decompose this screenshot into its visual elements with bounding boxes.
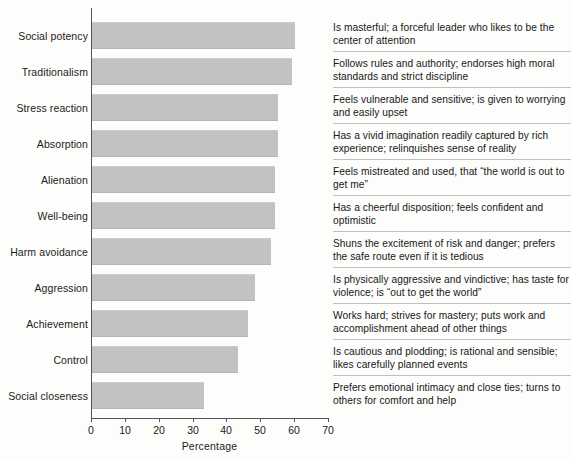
description-text: Prefers emotional intimacy and close tie… — [333, 381, 571, 407]
bar — [92, 94, 278, 121]
category-label: Harm avoidance — [2, 246, 88, 258]
x-axis-tick-label: 60 — [279, 424, 309, 436]
plot-area: 010203040506070 — [91, 8, 328, 418]
bar — [92, 238, 271, 265]
description-text: Feels mistreated and used, that “the wor… — [333, 165, 571, 191]
description-text: Has a cheerful disposition; feels confid… — [333, 201, 571, 227]
description-divider — [333, 303, 571, 304]
category-label: Aggression — [2, 282, 88, 294]
description-row: Is physically aggressive and vindictive;… — [333, 273, 571, 299]
bar — [92, 22, 295, 49]
description-divider — [333, 87, 571, 88]
description-text: Feels vulnerable and sensitive; is given… — [333, 93, 571, 119]
description-divider — [333, 123, 571, 124]
x-axis-tick-label: 50 — [245, 424, 275, 436]
description-row: Prefers emotional intimacy and close tie… — [333, 381, 571, 407]
description-divider — [333, 339, 571, 340]
category-label: Social closeness — [2, 390, 88, 402]
description-text: Is masterful; a forceful leader who like… — [333, 21, 571, 47]
category-label: Control — [2, 354, 88, 366]
bar — [92, 58, 292, 85]
x-axis-tick-label: 40 — [211, 424, 241, 436]
bar — [92, 274, 255, 301]
description-divider — [333, 375, 571, 376]
category-label: Social potency — [2, 30, 88, 42]
personality-traits-chart: Social potencyTraditionalismStress react… — [0, 0, 571, 461]
description-row: Is cautious and plodding; is rational an… — [333, 345, 571, 371]
x-axis-title: Percentage — [91, 440, 328, 452]
description-row: Follows rules and authority; endorses hi… — [333, 57, 571, 83]
description-row: Works hard; strives for mastery; puts wo… — [333, 309, 571, 335]
category-label: Traditionalism — [2, 66, 88, 78]
description-divider — [333, 195, 571, 196]
description-divider — [333, 267, 571, 268]
description-text: Shuns the excitement of risk and danger;… — [333, 237, 571, 263]
bar — [92, 130, 278, 157]
description-divider — [333, 231, 571, 232]
x-axis-tick — [260, 418, 261, 422]
x-axis-tick-label: 20 — [144, 424, 174, 436]
category-label: Alienation — [2, 174, 88, 186]
description-row: Has a vivid imagination readily captured… — [333, 129, 571, 155]
description-text: Works hard; strives for mastery; puts wo… — [333, 309, 571, 335]
description-row: Feels mistreated and used, that “the wor… — [333, 165, 571, 191]
category-label-column: Social potencyTraditionalismStress react… — [0, 0, 88, 420]
x-axis-tick — [91, 418, 92, 422]
description-text: Is physically aggressive and vindictive;… — [333, 273, 571, 299]
description-divider — [333, 159, 571, 160]
bar — [92, 382, 204, 409]
x-axis-tick — [328, 418, 329, 422]
description-row: Shuns the excitement of risk and danger;… — [333, 237, 571, 263]
x-axis-tick-label: 10 — [110, 424, 140, 436]
category-label: Well-being — [2, 210, 88, 222]
category-label: Stress reaction — [2, 102, 88, 114]
x-axis-tick-label: 70 — [313, 424, 343, 436]
x-axis-tick-label: 30 — [178, 424, 208, 436]
x-axis-tick — [193, 418, 194, 422]
bar — [92, 310, 248, 337]
bar — [92, 346, 238, 373]
description-text: Has a vivid imagination readily captured… — [333, 129, 571, 155]
description-row: Is masterful; a forceful leader who like… — [333, 21, 571, 47]
x-axis-tick-label: 0 — [76, 424, 106, 436]
x-axis-tick — [159, 418, 160, 422]
bar — [92, 202, 275, 229]
x-axis-tick — [294, 418, 295, 422]
x-axis-tick — [226, 418, 227, 422]
x-axis-tick — [125, 418, 126, 422]
description-text: Is cautious and plodding; is rational an… — [333, 345, 571, 371]
description-text: Follows rules and authority; endorses hi… — [333, 57, 571, 83]
bar — [92, 166, 275, 193]
category-label: Achievement — [2, 318, 88, 330]
x-axis-line — [91, 418, 328, 419]
category-label: Absorption — [2, 138, 88, 150]
description-column: Is masterful; a forceful leader who like… — [333, 0, 571, 420]
description-row: Feels vulnerable and sensitive; is given… — [333, 93, 571, 119]
description-row: Has a cheerful disposition; feels confid… — [333, 201, 571, 227]
description-divider — [333, 51, 571, 52]
